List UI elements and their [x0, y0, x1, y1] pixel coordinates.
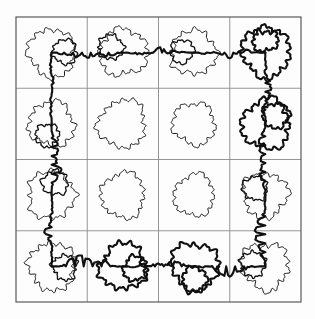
fractal-grid-figure [0, 0, 315, 319]
figure-container: Fractal percolation cluster hulls on a 4… [0, 0, 315, 319]
